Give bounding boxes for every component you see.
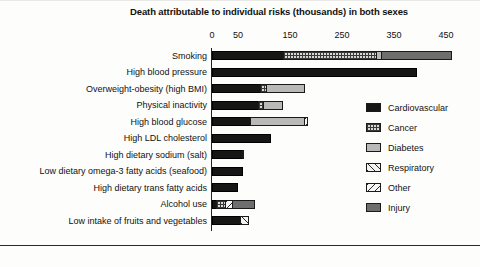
chart-page: Death attributable to individual risks (… — [0, 0, 480, 267]
y-axis-label: Overweight-obesity (high BMI) — [86, 85, 207, 94]
bar-row — [212, 167, 243, 176]
legend-label: Cancer — [388, 123, 417, 133]
legend-swatch-icon — [366, 143, 381, 152]
bar-segment — [266, 84, 305, 93]
bar-segment — [212, 134, 271, 143]
bar-segment — [250, 117, 305, 126]
bar-segment — [212, 167, 243, 176]
y-axis-label: Physical inactivity — [136, 101, 207, 110]
legend-label: Respiratory — [388, 163, 434, 173]
y-axis-label: High blood glucose — [130, 118, 207, 127]
bar-segment — [232, 200, 255, 209]
legend-item: Diabetes — [366, 143, 478, 152]
legend-item: Respiratory — [366, 163, 478, 172]
legend-swatch-icon — [366, 203, 381, 212]
bar-row — [212, 183, 238, 192]
x-tick-label: 0 — [209, 30, 214, 40]
chart-legend: CardiovascularCancerDiabetesRespiratoryO… — [366, 103, 478, 223]
bar-segment — [212, 101, 259, 110]
y-axis-label: High dietary sodium (salt) — [105, 151, 207, 160]
legend-label: Other — [388, 183, 411, 193]
y-axis-label: Alcohol use — [160, 200, 207, 209]
legend-item: Other — [366, 183, 478, 192]
x-tick-label: 150 — [282, 30, 297, 40]
legend-item: Cancer — [366, 123, 478, 132]
bar-segment — [242, 150, 244, 159]
legend-swatch-icon — [366, 123, 381, 132]
legend-label: Injury — [388, 203, 410, 213]
bar-row — [212, 101, 283, 110]
y-axis-label: Low intake of fruits and vegetables — [68, 217, 207, 226]
bar-segment — [212, 51, 284, 60]
y-axis-label: High dietary trans fatty acids — [93, 184, 207, 193]
y-axis-label: Smoking — [172, 52, 207, 61]
bottom-border — [0, 245, 480, 246]
bar-row — [212, 51, 452, 60]
y-axis-label: High LDL cholesterol — [124, 134, 207, 143]
legend-item: Cardiovascular — [366, 103, 478, 112]
legend-swatch-icon — [366, 103, 381, 112]
bar-row — [212, 216, 249, 225]
bar-segment — [212, 117, 251, 126]
legend-item: Injury — [366, 203, 478, 212]
x-tick-label: 450 — [438, 30, 453, 40]
bar-row — [212, 68, 417, 77]
x-tick-label: 250 — [334, 30, 349, 40]
bar-segment — [212, 68, 417, 77]
bar-segment — [304, 117, 308, 126]
legend-label: Cardiovascular — [388, 103, 448, 113]
bar-segment — [212, 84, 261, 93]
legend-label: Diabetes — [388, 143, 424, 153]
bar-segment — [263, 101, 283, 110]
bar-row — [212, 117, 308, 126]
bar-segment — [212, 183, 238, 192]
bar-row — [212, 150, 244, 159]
x-tick-label: 350 — [386, 30, 401, 40]
x-axis-tick-labels: 050150250350450 — [0, 30, 480, 44]
bar-segment — [283, 51, 378, 60]
y-axis-label: Low dietary omega-3 fatty acids (seafood… — [39, 167, 207, 176]
chart-title: Death attributable to individual risks (… — [0, 6, 480, 17]
bar-row — [212, 84, 305, 93]
bar-segment — [240, 216, 249, 225]
bar-row — [212, 134, 271, 143]
legend-swatch-icon — [366, 183, 381, 192]
bar-row — [212, 200, 255, 209]
x-tick-label: 50 — [233, 30, 243, 40]
bar-segment — [212, 150, 243, 159]
bar-segment — [381, 51, 452, 60]
y-axis-label: High blood pressure — [126, 68, 207, 77]
bar-segment — [212, 216, 241, 225]
top-border — [0, 0, 480, 1]
legend-swatch-icon — [366, 163, 381, 172]
y-axis-category-labels: SmokingHigh blood pressureOverweight-obe… — [0, 48, 207, 231]
